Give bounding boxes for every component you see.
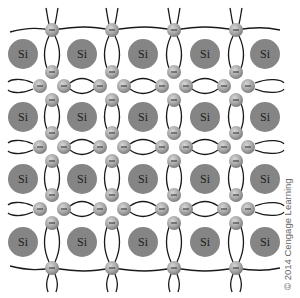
- electron: [105, 126, 119, 140]
- svg-text:Si: Si: [138, 110, 149, 124]
- electron: [241, 202, 255, 216]
- electron: [229, 23, 243, 37]
- si-atom: Si: [67, 164, 97, 194]
- electron: [105, 216, 119, 230]
- electron: [155, 202, 169, 216]
- electron: [217, 79, 231, 93]
- electron: [57, 79, 71, 93]
- svg-text:Si: Si: [260, 172, 271, 186]
- electron: [45, 188, 59, 202]
- electron: [105, 93, 119, 107]
- svg-text:Si: Si: [200, 172, 211, 186]
- si-atom: Si: [128, 39, 158, 69]
- si-atom: Si: [190, 164, 220, 194]
- electron: [179, 79, 193, 93]
- electron: [105, 23, 119, 37]
- electron: [229, 126, 243, 140]
- electron: [229, 261, 243, 275]
- electron: [105, 261, 119, 275]
- si-atom: Si: [67, 227, 97, 257]
- svg-text:Si: Si: [200, 110, 211, 124]
- electron: [45, 261, 59, 275]
- electron: [167, 154, 181, 168]
- svg-text:Si: Si: [200, 235, 211, 249]
- svg-text:Si: Si: [77, 172, 88, 186]
- si-atom: Si: [67, 102, 97, 132]
- electron: [93, 140, 107, 154]
- electron: [167, 216, 181, 230]
- electron: [45, 154, 59, 168]
- electron: [57, 202, 71, 216]
- si-atom: Si: [128, 227, 158, 257]
- copyright-notice: © 2014 Cengage Learning: [282, 178, 293, 290]
- si-atom: Si: [250, 39, 280, 69]
- electron: [217, 202, 231, 216]
- electron: [105, 65, 119, 79]
- electron: [241, 140, 255, 154]
- si-atom: Si: [190, 102, 220, 132]
- electron: [93, 202, 107, 216]
- electron: [45, 216, 59, 230]
- electron: [45, 23, 59, 37]
- electron: [229, 188, 243, 202]
- svg-text:Si: Si: [77, 47, 88, 61]
- svg-text:Si: Si: [18, 235, 29, 249]
- electron: [167, 93, 181, 107]
- si-atom: Si: [190, 227, 220, 257]
- svg-text:Si: Si: [200, 47, 211, 61]
- svg-text:Si: Si: [18, 172, 29, 186]
- si-atom: Si: [8, 164, 38, 194]
- si-atom: Si: [8, 39, 38, 69]
- svg-text:Si: Si: [138, 235, 149, 249]
- electron: [167, 261, 181, 275]
- electron: [179, 202, 193, 216]
- svg-text:Si: Si: [18, 110, 29, 124]
- si-atom: Si: [190, 39, 220, 69]
- si-atom: Si: [250, 227, 280, 257]
- electron: [241, 79, 255, 93]
- si-atom: Si: [250, 102, 280, 132]
- electron: [45, 65, 59, 79]
- electron: [33, 140, 47, 154]
- electron: [167, 126, 181, 140]
- electron: [217, 140, 231, 154]
- svg-text:Si: Si: [138, 172, 149, 186]
- electron: [179, 140, 193, 154]
- svg-text:Si: Si: [260, 110, 271, 124]
- electron: [57, 140, 71, 154]
- svg-text:Si: Si: [260, 235, 271, 249]
- silicon-lattice-diagram: SiSiSiSiSiSiSiSiSiSiSiSiSiSiSiSiSiSiSiSi: [0, 0, 300, 298]
- svg-text:Si: Si: [138, 47, 149, 61]
- electron: [167, 188, 181, 202]
- electron: [229, 216, 243, 230]
- electron: [105, 154, 119, 168]
- svg-text:Si: Si: [77, 110, 88, 124]
- electron: [155, 140, 169, 154]
- si-atom: Si: [250, 164, 280, 194]
- si-atom: Si: [8, 227, 38, 257]
- electron: [45, 126, 59, 140]
- electron: [117, 79, 131, 93]
- svg-text:Si: Si: [260, 47, 271, 61]
- si-atom: Si: [128, 164, 158, 194]
- svg-text:Si: Si: [77, 235, 88, 249]
- electron: [167, 23, 181, 37]
- electron: [33, 79, 47, 93]
- electron: [155, 79, 169, 93]
- electron: [117, 140, 131, 154]
- electron: [167, 65, 181, 79]
- electron: [229, 65, 243, 79]
- electron: [105, 188, 119, 202]
- electron: [45, 93, 59, 107]
- svg-text:Si: Si: [18, 47, 29, 61]
- electron: [229, 154, 243, 168]
- si-atom: Si: [128, 102, 158, 132]
- electron: [117, 202, 131, 216]
- electron: [229, 93, 243, 107]
- electron: [93, 79, 107, 93]
- si-atom: Si: [8, 102, 38, 132]
- electron: [33, 202, 47, 216]
- si-atom: Si: [67, 39, 97, 69]
